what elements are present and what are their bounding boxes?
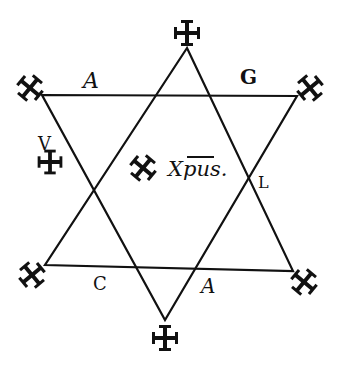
label-top-left: A: [81, 68, 99, 93]
bottom-left-cross-icon: [14, 257, 51, 294]
top-right-cross-icon: [292, 70, 329, 107]
center-cross-icon: [125, 150, 162, 187]
label-top-right: G: [240, 65, 257, 89]
bottom-cross-icon: [152, 325, 178, 351]
center-text: Xpus.: [166, 157, 227, 181]
label-bottom-right: A: [199, 274, 215, 298]
top-left-cross-icon: [12, 70, 49, 107]
top-cross-icon: [174, 20, 200, 46]
label-left-upper: V: [37, 133, 52, 154]
label-bottom-left: C: [93, 273, 107, 294]
downward-triangle: [42, 95, 297, 320]
hexagram-diagram: A G V L C A Xpus.: [0, 0, 341, 369]
label-right: L: [258, 173, 269, 192]
